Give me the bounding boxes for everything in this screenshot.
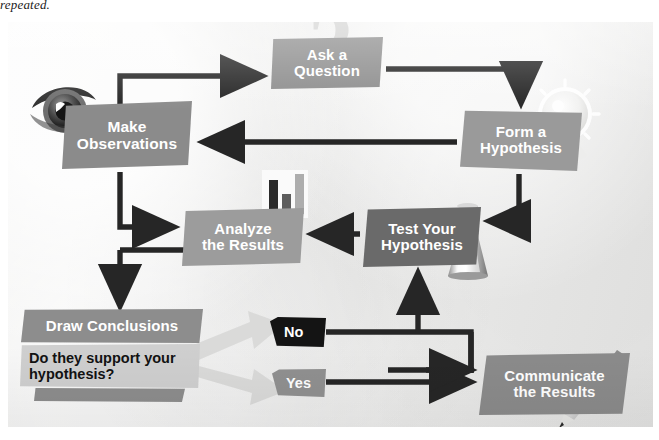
node-draw-conclusions[interactable]: Draw Conclusions: [21, 309, 203, 343]
node-analyze-line2: the Results: [202, 237, 284, 254]
node-test-line2: Hypothesis: [381, 237, 463, 254]
node-make-line1: Make: [77, 118, 177, 135]
node-communicate-the-results[interactable]: Communicate the Results: [479, 353, 630, 415]
decision-tag-no[interactable]: No: [270, 317, 326, 347]
node-analyze-the-results[interactable]: Analyze the Results: [182, 208, 304, 266]
figure-caption: repeated.: [0, 0, 50, 13]
draw-conclusions-shadow-strip: [34, 388, 185, 402]
decision-question-panel: Do they support your hypothesis?: [20, 344, 200, 388]
decision-tag-yes[interactable]: Yes: [272, 369, 326, 397]
decision-tag-yes-label: Yes: [286, 375, 311, 391]
node-analyze-line1: Analyze: [202, 221, 284, 238]
node-comm-line1: Communicate: [504, 368, 604, 385]
node-ask-line1: Ask a: [294, 47, 360, 64]
scientific-method-diagram: ?: [8, 22, 653, 427]
decision-question-line1: Do they support: [29, 350, 140, 366]
decision-tag-no-label: No: [284, 324, 303, 340]
node-ask-a-question[interactable]: Ask a Question: [271, 37, 383, 89]
node-comm-line2: the Results: [504, 384, 604, 401]
node-make-observations[interactable]: Make Observations: [62, 101, 192, 169]
node-form-a-hypothesis[interactable]: Form a Hypothesis: [460, 109, 582, 171]
node-test-line1: Test Your: [381, 221, 463, 238]
node-ask-line2: Question: [294, 63, 360, 80]
node-test-your-hypothesis[interactable]: Test Your Hypothesis: [363, 207, 481, 267]
node-make-line2: Observations: [77, 135, 177, 152]
node-form-line2: Hypothesis: [480, 140, 562, 157]
node-form-line1: Form a: [480, 124, 562, 141]
node-draw-label: Draw Conclusions: [46, 318, 178, 335]
